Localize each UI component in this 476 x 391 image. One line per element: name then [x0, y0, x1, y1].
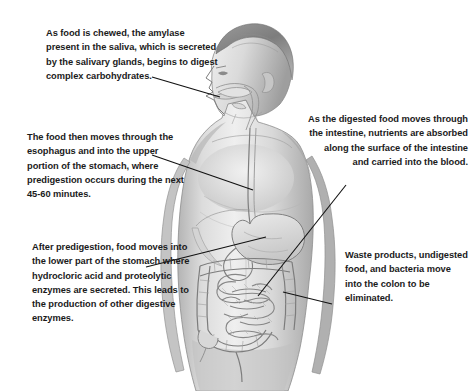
chest-highlight	[198, 144, 294, 212]
callout-esophagus: The food then moves through the esophagu…	[27, 130, 187, 201]
callout-waste: Waste products, undigested food, and bac…	[345, 248, 470, 305]
digestion-diagram: As food is chewed, the amylase present i…	[0, 0, 476, 391]
callout-predigestion: After predigestion, food moves into the …	[32, 240, 197, 326]
callout-absorption: As the digested food moves through the i…	[306, 112, 468, 169]
callout-amylase: As food is chewed, the amylase present i…	[46, 26, 218, 83]
